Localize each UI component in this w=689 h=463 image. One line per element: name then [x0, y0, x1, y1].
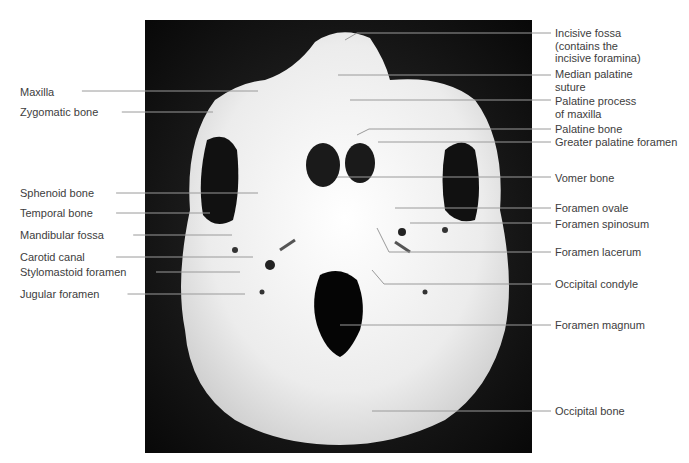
label-foramen-spinosum: Foramen spinosum [555, 218, 649, 231]
skull-illustration [145, 20, 532, 453]
label-occipital-bone: Occipital bone [555, 405, 625, 418]
label-palatine-bone: Palatine bone [555, 123, 622, 136]
label-vomer-bone: Vomer bone [555, 172, 614, 185]
label-sphenoid-bone: Sphenoid bone [20, 187, 94, 200]
label-occipital-condyle: Occipital condyle [555, 278, 638, 291]
label-maxilla: Maxilla [20, 86, 54, 99]
label-foramen-lacerum: Foramen lacerum [555, 246, 641, 259]
label-foramen-ovale: Foramen ovale [555, 202, 628, 215]
label-jugular-foramen: Jugular foramen [20, 288, 100, 301]
label-zygomatic-bone: Zygomatic bone [20, 106, 98, 119]
label-palatine-process: Palatine process of maxilla [555, 95, 636, 120]
label-mandibular-fossa: Mandibular fossa [20, 229, 104, 242]
label-incisive-fossa: Incisive fossa (contains the incisive fo… [555, 27, 641, 65]
label-median-palatine: Median palatine suture [555, 68, 633, 93]
label-stylomastoid-foramen: Stylomastoid foramen [20, 266, 126, 279]
label-temporal-bone: Temporal bone [20, 207, 93, 220]
skull-photograph [145, 20, 532, 453]
label-foramen-magnum: Foramen magnum [555, 319, 645, 332]
label-greater-palatine-foramen: Greater palatine foramen [555, 136, 677, 149]
label-carotid-canal: Carotid canal [20, 251, 85, 264]
